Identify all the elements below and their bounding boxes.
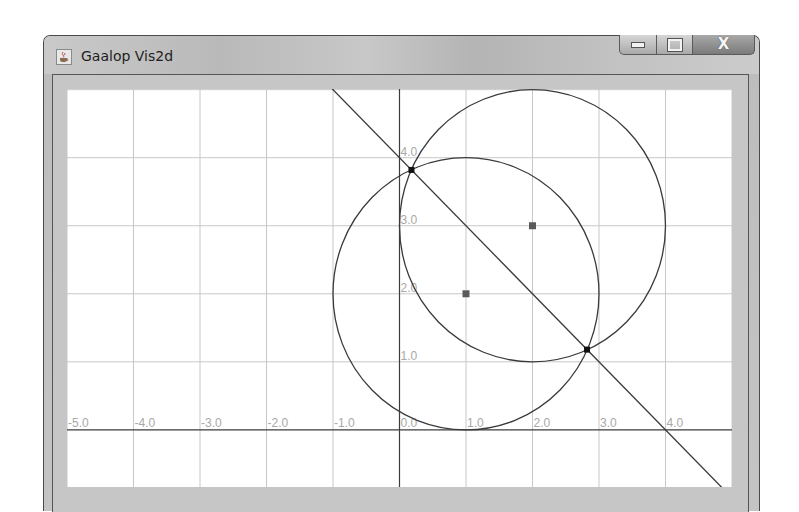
center-point[interactable] <box>463 290 470 297</box>
intersection-point[interactable] <box>584 347 590 353</box>
x-tick-label: 4.0 <box>667 416 684 430</box>
app-window: Gaalop Vis2d X -5.0-4.0-3.0-2.0-1.00.01.… <box>43 35 760 511</box>
x-tick-label: 1.0 <box>467 416 484 430</box>
minimize-button[interactable] <box>619 35 657 55</box>
x-tick-label: 3.0 <box>600 416 617 430</box>
x-tick-label: 0.0 <box>401 416 418 430</box>
caption-buttons: X <box>619 35 755 55</box>
title-bar[interactable]: Gaalop Vis2d X <box>44 36 759 74</box>
java-coffee-icon <box>56 49 72 65</box>
y-tick-label: 2.0 <box>401 281 418 295</box>
intersection-point[interactable] <box>408 167 414 173</box>
x-tick-label: -5.0 <box>68 416 89 430</box>
center-point[interactable] <box>529 222 536 229</box>
x-tick-label: -3.0 <box>201 416 222 430</box>
x-tick-label: 2.0 <box>534 416 551 430</box>
window-title: Gaalop Vis2d <box>81 48 173 64</box>
close-button[interactable]: X <box>693 35 755 55</box>
minimize-icon <box>631 42 645 48</box>
close-icon: X <box>718 37 730 52</box>
geometry-plot[interactable]: -5.0-4.0-3.0-2.0-1.00.01.02.03.04.01.02.… <box>67 89 732 487</box>
x-tick-label: -2.0 <box>268 416 289 430</box>
x-tick-label: -1.0 <box>334 416 355 430</box>
maximize-button[interactable] <box>657 35 693 55</box>
maximize-icon <box>668 39 682 51</box>
y-tick-label: 1.0 <box>401 349 418 363</box>
y-tick-label: 4.0 <box>401 145 418 159</box>
y-tick-label: 3.0 <box>401 213 418 227</box>
plot-canvas[interactable]: -5.0-4.0-3.0-2.0-1.00.01.02.03.04.01.02.… <box>67 89 732 487</box>
x-tick-label: -4.0 <box>135 416 156 430</box>
